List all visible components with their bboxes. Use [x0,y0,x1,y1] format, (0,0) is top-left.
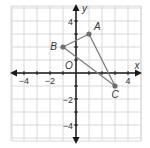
y-tick-label: 4 [68,17,73,27]
coordinate-plane: xyO−4−244−2−4 ABC [0,0,150,148]
axes [10,4,142,144]
x-axis-label: x [134,60,141,71]
y-tick-label: −4 [63,121,73,131]
point-a [86,31,91,36]
point-label-b: B [50,41,57,52]
x-tick-label: 4 [125,76,130,86]
y-tick-label: −2 [63,95,73,105]
y-axis-label: y [81,3,88,14]
point-label-c: C [111,89,119,100]
x-tick-label: −4 [19,76,29,86]
x-tick-label: −2 [45,76,55,86]
origin-label: O [65,60,73,71]
point-b [60,44,65,49]
point-label-a: A [93,21,101,32]
point-c [112,83,117,88]
